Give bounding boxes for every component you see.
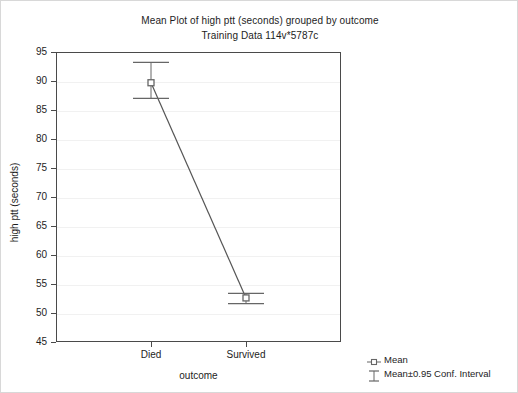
y-axis-tick — [51, 139, 56, 140]
legend-square-marker — [372, 359, 377, 364]
x-axis-tick — [151, 342, 152, 347]
chart-legend: MeanMean±0.95 Conf. Interval — [367, 353, 517, 381]
gridline — [57, 285, 340, 286]
legend-item[interactable]: Mean — [367, 353, 517, 366]
gridline — [57, 140, 340, 141]
gridline — [57, 82, 340, 83]
y-axis-tick — [51, 110, 56, 111]
y-axis-tick — [51, 197, 56, 198]
i-beam-errorbar-icon — [367, 368, 382, 380]
x-axis-tick-label: Survived — [201, 349, 291, 360]
chart-title-block: Mean Plot of high ptt (seconds) grouped … — [1, 13, 518, 43]
gridline — [57, 256, 340, 257]
y-axis-tick — [51, 313, 56, 314]
x-axis-tick — [246, 342, 247, 347]
y-axis-title: high ptt (seconds) — [9, 123, 20, 283]
y-axis-tick — [51, 255, 56, 256]
y-axis-tick — [51, 226, 56, 227]
y-axis-tick — [51, 342, 56, 343]
y-axis-tick-label: 95 — [7, 46, 47, 57]
y-axis-tick-label: 85 — [7, 104, 47, 115]
chart-canvas: Mean Plot of high ptt (seconds) grouped … — [0, 0, 518, 393]
y-axis-tick — [51, 81, 56, 82]
x-axis-tick-label: Died — [106, 349, 196, 360]
y-axis-tick — [51, 52, 56, 53]
legend-label: Mean±0.95 Conf. Interval — [382, 368, 491, 379]
y-axis-tick — [51, 284, 56, 285]
chart-title: Mean Plot of high ptt (seconds) grouped … — [1, 13, 518, 28]
gridline — [57, 314, 340, 315]
plot-area — [56, 52, 341, 342]
legend-label: Mean — [382, 354, 408, 365]
y-axis-tick-label: 45 — [7, 336, 47, 347]
gridline — [57, 227, 340, 228]
gridline — [57, 198, 340, 199]
gridline — [57, 111, 340, 112]
y-axis-tick-label: 90 — [7, 75, 47, 86]
y-axis-tick — [51, 168, 56, 169]
y-axis-tick-label: 50 — [7, 307, 47, 318]
gridline — [57, 169, 340, 170]
chart-subtitle: Training Data 114v*5787c — [1, 28, 518, 43]
x-axis-title: outcome — [56, 370, 341, 381]
legend-item[interactable]: Mean±0.95 Conf. Interval — [367, 367, 517, 380]
square-marker-icon — [367, 354, 382, 366]
